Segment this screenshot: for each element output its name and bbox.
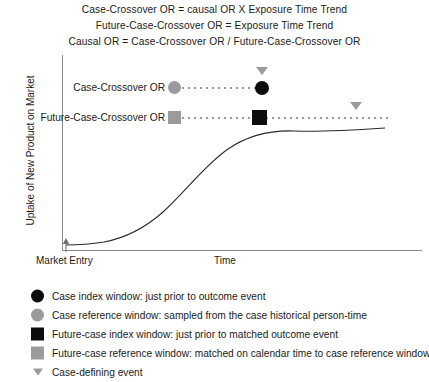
gray-circle-icon xyxy=(31,308,44,321)
y-axis-label: Uptake of New Product on Market xyxy=(25,51,36,251)
black-square-marker xyxy=(252,110,267,125)
legend-item-label: Case-defining event xyxy=(52,366,143,377)
x-axis-origin-label: Market Entry xyxy=(36,255,93,266)
black-circle-icon xyxy=(31,289,44,302)
legend-item: Future-case reference window: matched on… xyxy=(0,343,429,362)
row-label-case-crossover: Case-Crossover OR xyxy=(0,82,165,93)
legend-item-label: Case reference window: sampled from the … xyxy=(52,309,367,320)
legend-item: Case index window: just prior to outcome… xyxy=(0,286,429,305)
legend-item: Future-case index window: just prior to … xyxy=(0,324,429,343)
gray-triangle-icon xyxy=(256,67,268,75)
black-square-icon xyxy=(31,327,44,340)
legend: Case index window: just prior to outcome… xyxy=(0,286,429,381)
legend-item: Case reference window: sampled from the … xyxy=(0,305,429,324)
legend-item-label: Case index window: just prior to outcome… xyxy=(52,290,265,301)
equation-line-3: Causal OR = Case-Crossover OR / Future-C… xyxy=(0,34,429,50)
case-crossover-connector xyxy=(176,87,262,89)
legend-item-label: Future-case index window: just prior to … xyxy=(52,328,338,339)
black-circle-marker xyxy=(255,81,269,95)
equation-line-2: Future-Case-Crossover OR = Exposure Time… xyxy=(0,18,429,34)
gray-triangle-icon xyxy=(350,102,362,110)
gray-triangle-icon xyxy=(33,368,43,375)
market-entry-arrow-head xyxy=(63,238,69,244)
row-label-future-case-crossover: Future-Case-Crossover OR xyxy=(0,112,165,123)
x-axis-label: Time xyxy=(214,255,236,266)
gray-square-marker xyxy=(168,111,181,124)
gray-square-icon xyxy=(31,346,44,359)
diagram-figure: Case-Crossover OR = causal OR X Exposure… xyxy=(0,0,429,382)
legend-item: Case-defining event xyxy=(0,362,429,381)
gray-circle-marker xyxy=(168,81,181,94)
uptake-curve-path xyxy=(66,128,385,245)
future-case-crossover-connector xyxy=(176,117,388,119)
x-axis-line xyxy=(62,250,422,251)
legend-item-label: Future-case reference window: matched on… xyxy=(52,347,429,358)
equation-line-1: Case-Crossover OR = causal OR X Exposure… xyxy=(0,2,429,18)
